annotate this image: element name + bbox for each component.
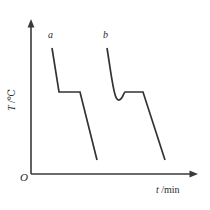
x-axis-unit: min: [164, 184, 180, 195]
y-axis-separator: /: [6, 100, 17, 105]
curve-b-label: b: [103, 30, 108, 40]
x-axis-label: t /min: [156, 185, 180, 195]
y-axis-unit: ℃: [6, 89, 17, 100]
y-axis-label: T /℃: [7, 74, 17, 126]
origin-label: O: [20, 172, 28, 183]
y-axis-symbol: T: [6, 105, 17, 111]
y-axis-arrow-icon: [28, 19, 35, 28]
x-axis-arrow-icon: [190, 171, 199, 178]
cooling-curve-figure: a b O t /min T /℃: [0, 0, 210, 210]
curve-b-path: [107, 48, 165, 160]
curve-a-path: [52, 48, 97, 160]
curve-a-label: a: [48, 30, 53, 40]
